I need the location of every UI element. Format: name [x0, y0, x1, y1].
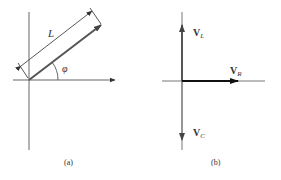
caption-a: (a) [64, 158, 73, 167]
panel-b: VL VR VC (b) [162, 12, 265, 167]
phasor-diagram: L φ (a) VL VR VC (b) [0, 0, 281, 180]
panel-a: L φ (a) [13, 8, 115, 167]
label-VL: VL [193, 27, 204, 40]
caption-b: (b) [211, 158, 221, 167]
label-VR: VR [230, 65, 242, 78]
label-VC: VC [193, 127, 205, 140]
dimension-tick-start [18, 63, 28, 78]
label-L: L [47, 27, 54, 39]
angle-arc-phi [52, 62, 58, 80]
label-phi: φ [62, 63, 68, 74]
dimension-tick-end [90, 8, 101, 24]
